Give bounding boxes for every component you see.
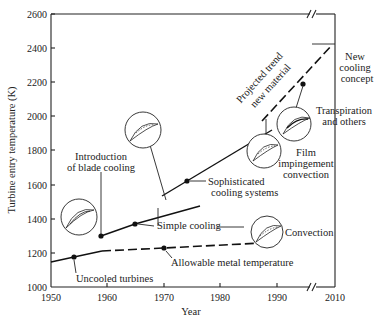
blade-circle-convection: [251, 216, 283, 248]
annotation-film-2: impingement: [278, 158, 333, 169]
y-tick-2400: 2400: [27, 43, 47, 54]
y-tick-1400: 1400: [27, 214, 47, 225]
annotation-transpiration-2: and others: [322, 116, 365, 127]
data-point: [300, 81, 305, 86]
annotation-intro-2: of blade cooling: [67, 162, 136, 173]
blade-circle-film: [247, 134, 281, 168]
y-tick-1200: 1200: [27, 248, 47, 259]
data-point: [98, 233, 103, 238]
y-tick-2600: 2600: [27, 9, 47, 20]
y-tick-2200: 2200: [27, 77, 47, 88]
annotation-allowable: Allowable metal temperature: [171, 257, 294, 268]
annotation-soph-2: cooling systems: [211, 187, 278, 198]
blade-circle-uncooled: [61, 199, 97, 235]
annotation-film-3: convection: [283, 169, 330, 180]
annotation-new-2: cooling: [339, 62, 371, 73]
y-axis-label: Turbine entry temperature (K): [6, 86, 18, 214]
series-uncooled: [51, 251, 102, 262]
y-tick-1600: 1600: [27, 180, 47, 191]
annotation-soph-1: Sophisticated: [208, 176, 265, 187]
annotation-film-1: Film: [296, 147, 316, 158]
blade-circle-simple: [125, 112, 161, 148]
x-axis-label: Year: [181, 306, 201, 317]
annotation-intro-1: Introduction: [75, 151, 128, 162]
annotation-new-3: concept: [341, 73, 374, 84]
data-point: [161, 245, 166, 250]
data-point: [71, 254, 76, 259]
x-tick-1990: 1990: [267, 292, 287, 303]
y-tick-2000: 2000: [27, 111, 47, 122]
annotation-new-1: New: [345, 51, 365, 62]
blade-circle-transpiration: [277, 107, 311, 141]
x-tick-1970: 1970: [154, 292, 174, 303]
annotation-uncooled: Uncooled turbines: [76, 273, 153, 284]
y-tick-1800: 1800: [27, 145, 47, 156]
x-tick-1950: 1950: [41, 292, 61, 303]
x-tick-1960: 1960: [97, 292, 117, 303]
annotation-convection: Convection: [285, 227, 334, 238]
x-tick-2010: 2010: [325, 292, 345, 303]
data-point: [132, 221, 137, 226]
x-tick-1980: 1980: [210, 292, 230, 303]
turbine-temperature-chart: 2600 2400 2200 2000 1800 1600 1400 1200 …: [0, 0, 387, 328]
series-allowable-metal: [102, 243, 262, 251]
annotation-simple-cooling: Simple cooling: [157, 220, 222, 231]
annotation-transpiration-1: Transpiration: [316, 105, 373, 116]
data-point: [184, 178, 189, 183]
x-ticks: 1950 1960 1970 1980 1990 2010: [41, 283, 345, 303]
